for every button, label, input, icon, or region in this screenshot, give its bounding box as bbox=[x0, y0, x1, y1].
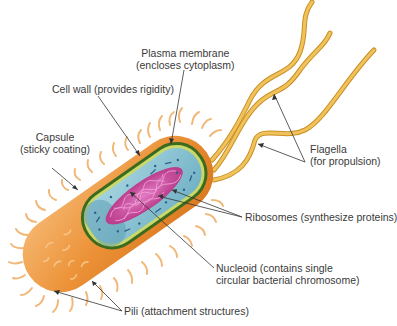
label-flagella: Flagella (for propulsion) bbox=[310, 143, 381, 167]
label-cell-wall: Cell wall (provides rigidity) bbox=[52, 83, 174, 95]
label-plasma-membrane: Plasma membrane (encloses cytoplasm) bbox=[136, 47, 235, 71]
label-capsule: Capsule (sticky coating) bbox=[20, 131, 90, 155]
label-pili: Pili (attachment structures) bbox=[124, 305, 249, 317]
label-nucleoid: Nucleoid (contains single circular bacte… bbox=[216, 262, 360, 286]
label-ribosomes: Ribosomes (synthesize proteins) bbox=[245, 211, 397, 223]
